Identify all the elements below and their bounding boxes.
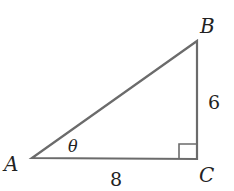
vertex-label-b: B bbox=[199, 14, 215, 38]
side-label-ac: 8 bbox=[110, 168, 122, 190]
vertex-label-c: C bbox=[199, 163, 214, 187]
right-angle-marker bbox=[179, 144, 197, 159]
side-label-bc: 6 bbox=[208, 91, 220, 113]
angle-label-theta: θ bbox=[68, 137, 78, 156]
vertex-label-a: A bbox=[2, 152, 18, 176]
triangle-abc bbox=[32, 41, 197, 159]
triangle-diagram: A B C 6 8 θ bbox=[0, 0, 234, 191]
